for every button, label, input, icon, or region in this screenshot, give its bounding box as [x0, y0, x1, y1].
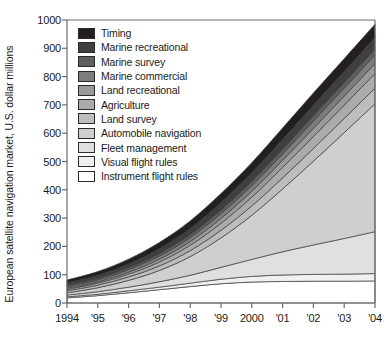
legend-item[interactable]: Land recreational [78, 83, 201, 97]
legend-label: Instrument flight rules [101, 170, 198, 182]
legend-item[interactable]: Visual flight rules [78, 155, 201, 169]
legend-item[interactable]: Timing [78, 26, 201, 40]
legend-item[interactable]: Land survey [78, 112, 201, 126]
legend-swatch-icon [78, 56, 95, 67]
legend-swatch-icon [78, 142, 95, 153]
legend-label: Timing [101, 27, 131, 39]
legend-label: Agriculture [101, 99, 150, 111]
legend-label: Marine commercial [101, 70, 187, 82]
legend-label: Fleet management [101, 142, 186, 154]
legend-item[interactable]: Marine recreational [78, 40, 201, 54]
legend-item[interactable]: Marine survey [78, 55, 201, 69]
legend-swatch-icon [78, 99, 95, 110]
legend-item[interactable]: Automobile navigation [78, 126, 201, 140]
chart-root: European satellite navigation market, U.… [0, 0, 390, 348]
legend-swatch-icon [78, 171, 95, 182]
chart-legend: TimingMarine recreationalMarine surveyMa… [78, 26, 201, 183]
legend-label: Marine survey [101, 56, 165, 68]
legend-item[interactable]: Instrument flight rules [78, 169, 201, 183]
legend-swatch-icon [78, 42, 95, 53]
legend-label: Marine recreational [101, 41, 188, 53]
legend-swatch-icon [78, 28, 95, 39]
legend-swatch-icon [78, 128, 95, 139]
legend-item[interactable]: Marine commercial [78, 69, 201, 83]
legend-swatch-icon [78, 156, 95, 167]
legend-label: Land survey [101, 113, 157, 125]
legend-swatch-icon [78, 85, 95, 96]
legend-label: Land recreational [101, 84, 180, 96]
legend-item[interactable]: Agriculture [78, 97, 201, 111]
legend-item[interactable]: Fleet management [78, 140, 201, 154]
legend-swatch-icon [78, 71, 95, 82]
legend-swatch-icon [78, 113, 95, 124]
legend-label: Automobile navigation [101, 127, 201, 139]
legend-label: Visual flight rules [101, 156, 177, 168]
